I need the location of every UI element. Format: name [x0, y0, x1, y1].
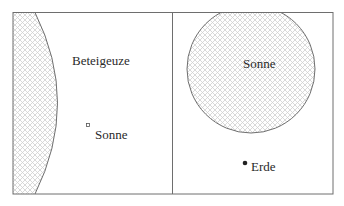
earth-dot	[243, 161, 248, 166]
betelgeuse-label: Beteigeuze	[72, 53, 130, 68]
right-panel: Sonne Erde	[187, 5, 315, 174]
left-panel: Beteigeuze Sonne	[13, 13, 173, 195]
sun-label-right: Sonne	[243, 56, 276, 71]
sun-label-left: Sonne	[95, 127, 128, 142]
sun-marker-small	[87, 124, 90, 127]
earth-label: Erde	[251, 159, 276, 174]
size-comparison-diagram: Beteigeuze Sonne Sonne Erde	[0, 0, 344, 206]
